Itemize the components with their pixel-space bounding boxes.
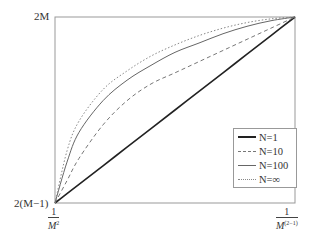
legend-swatch-dotted — [238, 179, 256, 180]
legend-item-n1: N=1 — [238, 131, 278, 143]
x-tick-left-numerator: 1 — [48, 206, 59, 218]
legend-swatch-solid-thin — [238, 165, 256, 166]
legend-label: N=100 — [259, 160, 288, 171]
legend: N=1 N=10 N=100 N=∞ — [233, 128, 297, 188]
x-tick-right-denominator: M(2−1) — [276, 218, 298, 231]
legend-item-n10: N=10 — [238, 145, 283, 157]
y-tick-bottom: 2(M−1) — [14, 197, 48, 209]
y-tick-top: 2M — [34, 10, 49, 22]
x-tick-left-denominator: M2 — [48, 218, 59, 231]
legend-swatch-solid-thick — [238, 136, 256, 138]
x-tick-right: 1 M(2−1) — [276, 206, 298, 231]
x-tick-left: 1 M2 — [48, 206, 59, 231]
legend-item-ninf: N=∞ — [238, 173, 280, 185]
legend-label: N=1 — [259, 132, 278, 143]
legend-item-n100: N=100 — [238, 159, 288, 171]
legend-swatch-dashed — [238, 151, 256, 152]
legend-label: N=∞ — [259, 174, 280, 185]
x-tick-right-numerator: 1 — [276, 206, 298, 218]
legend-label: N=10 — [259, 146, 283, 157]
